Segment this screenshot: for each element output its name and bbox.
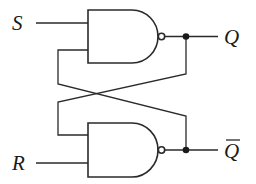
inversion-bubble-bottom	[158, 147, 164, 153]
label-r: R	[12, 153, 25, 174]
label-qbar: Q	[224, 141, 239, 162]
inversion-bubble-top	[158, 33, 164, 39]
label-q: Q	[224, 27, 239, 48]
nand-gate-bottom	[88, 123, 158, 177]
junction-dot-q	[183, 33, 190, 40]
junction-dot-qbar	[183, 147, 190, 154]
sr-latch-diagram	[0, 0, 256, 184]
label-s: S	[12, 13, 23, 34]
nand-gate-top	[88, 10, 158, 63]
